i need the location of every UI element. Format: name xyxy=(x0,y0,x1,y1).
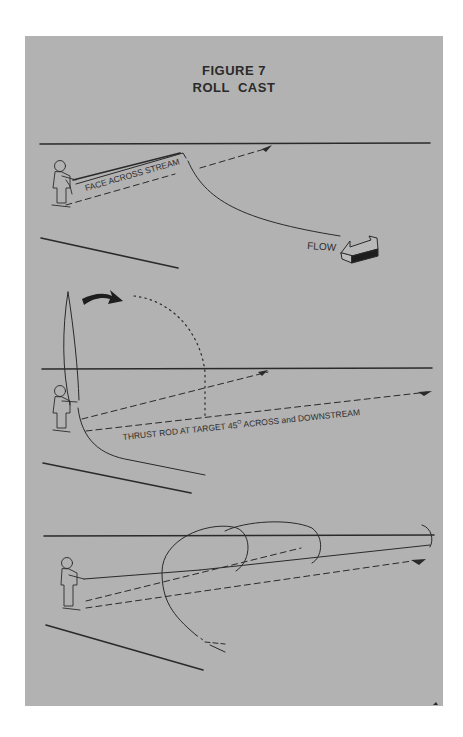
face-across-stream-label: FACE ACROSS STREAM xyxy=(84,156,181,193)
target-arrowhead-icon xyxy=(418,391,432,396)
target-arrowhead-icon xyxy=(258,370,268,376)
flow-arrow-icon xyxy=(341,236,378,263)
downstream-target-line-dashed xyxy=(86,561,412,608)
target-line-dashed xyxy=(86,548,301,601)
target-line-dashed xyxy=(82,372,268,419)
fly-rod xyxy=(68,292,79,400)
angler-figure xyxy=(61,558,84,611)
near-bank-line xyxy=(41,238,178,268)
thrust-rod-instruction: THRUST ROD AT TARGET 45O ACROSS and DOWN… xyxy=(122,406,360,442)
scene-2: THRUST ROD AT TARGET 45O ACROSS and DOWN… xyxy=(42,290,432,493)
line-loop-medium xyxy=(225,522,321,563)
corner-mark xyxy=(433,702,438,705)
scene-3 xyxy=(44,522,434,670)
instruction-suffix: ACROSS and DOWNSTREAM xyxy=(241,407,360,429)
line-loop-large xyxy=(162,526,248,635)
instruction-text: THRUST ROD AT TARGET 45 xyxy=(122,420,238,442)
far-bank-line xyxy=(42,368,432,369)
fly-line xyxy=(78,408,205,475)
far-bank-line xyxy=(40,143,430,144)
fly-line-upper xyxy=(200,545,430,570)
angler-figure xyxy=(53,386,77,433)
curved-motion-arrow-icon xyxy=(82,290,123,305)
far-bank-line xyxy=(44,535,434,536)
flow-label: FLOW xyxy=(307,240,337,253)
target-arrowhead-icon xyxy=(411,559,426,565)
angler-figure xyxy=(52,161,76,208)
scene-1: FACE ACROSS STREAM FLOW xyxy=(40,143,430,268)
target-line-dashed xyxy=(200,148,268,168)
near-bank-line xyxy=(46,625,203,670)
rod-motion-arc xyxy=(134,296,205,416)
line-loop-end xyxy=(422,525,432,547)
fly-line xyxy=(188,161,340,236)
fly-rod xyxy=(84,570,200,579)
roll-cast-diagram: FACE ACROSS STREAM FLOW xyxy=(0,0,463,737)
target-arrowhead-icon xyxy=(262,145,272,152)
